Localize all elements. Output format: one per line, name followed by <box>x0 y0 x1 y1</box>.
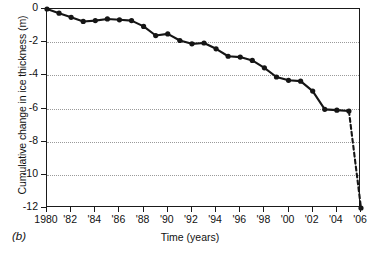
data-point-marker <box>141 24 146 29</box>
y-axis-tick <box>41 74 46 75</box>
data-point-marker <box>226 54 231 59</box>
x-axis-tick <box>70 207 71 212</box>
y-axis-tick <box>41 174 46 175</box>
ice-thickness-line-solid <box>47 9 349 111</box>
data-point-marker <box>322 107 327 112</box>
y-axis-tick <box>41 108 46 109</box>
data-point-marker <box>153 33 158 38</box>
x-axis-tick-label: 1980 <box>34 214 57 225</box>
x-axis-tick-label: '88 <box>136 214 150 225</box>
x-axis-tick-label: '92 <box>184 214 198 225</box>
data-point-marker <box>346 108 351 113</box>
y-axis-tick-label: -6 <box>8 102 38 112</box>
data-point-marker <box>129 18 134 23</box>
x-axis-tick <box>143 207 144 212</box>
data-point-marker <box>105 16 110 21</box>
y-axis-tick-label: 0 <box>8 2 38 12</box>
x-axis-tick-label: '94 <box>208 214 222 225</box>
x-axis-tick <box>167 207 168 212</box>
data-point-marker <box>81 19 86 24</box>
data-point-marker <box>238 54 243 59</box>
data-point-marker <box>165 31 170 36</box>
data-point-marker <box>250 58 255 63</box>
x-axis-tick <box>191 207 192 212</box>
x-axis-tick-label: '90 <box>160 214 174 225</box>
x-axis-tick-label: '04 <box>329 214 343 225</box>
y-axis-tick-label: -8 <box>8 135 38 145</box>
data-point-marker <box>298 79 303 84</box>
x-axis-tick <box>215 207 216 212</box>
x-axis-tick-label: '00 <box>281 214 295 225</box>
data-point-marker <box>310 88 315 93</box>
data-series-layer <box>47 9 361 208</box>
data-point-markers <box>44 6 363 210</box>
x-axis-tick-label: '82 <box>63 214 77 225</box>
x-axis-tick-label: '98 <box>257 214 271 225</box>
data-point-marker <box>117 17 122 22</box>
x-axis-tick-label: '86 <box>112 214 126 225</box>
x-axis-tick-label: '84 <box>87 214 101 225</box>
y-axis-tick-label: -10 <box>8 168 38 178</box>
data-point-marker <box>274 74 279 79</box>
data-point-marker <box>334 108 339 113</box>
x-axis-tick <box>288 207 289 212</box>
x-axis-tick <box>239 207 240 212</box>
x-axis-tick <box>360 207 361 212</box>
x-axis-tick <box>263 207 264 212</box>
x-axis-tick-label: '96 <box>232 214 246 225</box>
x-axis-tick <box>94 207 95 212</box>
x-axis-title: Time (years) <box>0 231 380 243</box>
x-axis-tick <box>46 207 47 212</box>
data-point-marker <box>177 38 182 43</box>
y-axis-tick <box>41 41 46 42</box>
y-axis-tick-label: -12 <box>8 201 38 211</box>
y-axis-tick-label: -4 <box>8 68 38 78</box>
data-point-marker <box>201 40 206 45</box>
data-point-marker <box>69 15 74 20</box>
figure-panel-b: Cumulative change in ice thickness (m) T… <box>0 0 380 254</box>
y-axis-tick <box>41 141 46 142</box>
y-axis-tick <box>41 8 46 9</box>
x-axis-tick <box>118 207 119 212</box>
data-point-marker <box>93 18 98 23</box>
data-point-marker <box>213 46 218 51</box>
data-point-marker <box>286 78 291 83</box>
data-point-marker <box>262 65 267 70</box>
x-axis-tick-label: '06 <box>353 214 367 225</box>
data-point-marker <box>189 41 194 46</box>
panel-label: (b) <box>12 230 26 242</box>
x-axis-tick <box>336 207 337 212</box>
data-point-marker <box>56 11 61 16</box>
ice-thickness-line-dashed <box>349 111 361 208</box>
x-axis-tick-label: '02 <box>305 214 319 225</box>
plot-area <box>46 8 360 207</box>
x-axis-tick <box>312 207 313 212</box>
y-axis-tick-label: -2 <box>8 35 38 45</box>
